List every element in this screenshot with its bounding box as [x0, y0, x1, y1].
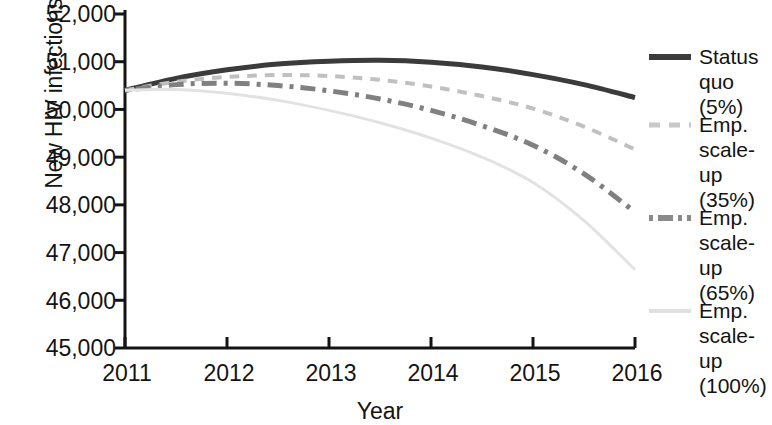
legend-item-label: Status quo (5%) [699, 44, 772, 119]
solid-dark-line-icon [648, 44, 692, 70]
data-series-group [125, 60, 635, 270]
data-series-line [125, 89, 635, 269]
legend-item-label: Emp. scale-up (35%) [699, 112, 772, 212]
data-series-line [125, 75, 635, 149]
x-axis-ticks [125, 337, 635, 348]
legend-item-label: Emp. scale-up (65%) [699, 205, 772, 305]
legend-item-emp-scaleup-35[interactable]: Emp. scale-up (35%) [648, 112, 772, 212]
solid-verylight-line-icon [648, 298, 692, 324]
legend-item-status-quo[interactable]: Status quo (5%) [648, 44, 772, 119]
dashed-light-line-icon [648, 112, 692, 138]
chart-figure: New HIV infections 52,000 51,000 50,000 … [0, 0, 772, 425]
data-series-line [125, 83, 635, 212]
legend-item-emp-scaleup-65[interactable]: Emp. scale-up (65%) [648, 205, 772, 305]
legend-item-emp-scaleup-100[interactable]: Emp. scale-up (100%) [648, 298, 772, 398]
legend-item-label: Emp. scale-up (100%) [699, 298, 772, 398]
dash-dot-gray-line-icon [648, 205, 692, 231]
